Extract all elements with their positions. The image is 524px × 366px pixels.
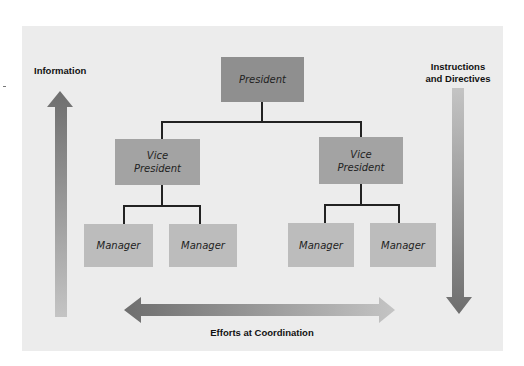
manager-box-1: Manager <box>84 224 153 267</box>
vice-president-left-box: Vice President <box>115 139 200 185</box>
president-box: President <box>221 57 304 102</box>
instructions-label-line1: Instructions <box>418 61 498 73</box>
vp-left-label-line2: President <box>134 162 181 175</box>
manager-3-label: Manager <box>299 239 343 252</box>
connector-vp-left-down <box>161 185 163 206</box>
connector-left-managers-horizontal <box>123 205 200 207</box>
president-label: President <box>239 73 286 86</box>
flow-arrows <box>0 0 524 366</box>
vp-right-label-line1: Vice <box>337 148 384 161</box>
instructions-directives-label: Instructions and Directives <box>418 61 498 85</box>
connector-to-vp-right <box>360 121 362 137</box>
vp-left-label-line1: Vice <box>134 149 181 162</box>
information-up-arrow-icon <box>47 91 73 317</box>
coordination-double-arrow-icon <box>124 297 395 323</box>
instructions-down-arrow-icon <box>446 88 472 314</box>
manager-box-4: Manager <box>370 223 436 267</box>
manager-box-3: Manager <box>288 223 354 267</box>
vp-right-label-line2: President <box>337 161 384 174</box>
manager-box-2: Manager <box>169 224 237 267</box>
connector-vp-right-down <box>360 184 362 205</box>
connector-to-vp-left <box>161 121 163 139</box>
connector-president-down <box>261 102 263 122</box>
connector-vp-horizontal <box>161 121 362 123</box>
manager-2-label: Manager <box>181 239 225 252</box>
vice-president-right-box: Vice President <box>319 137 403 184</box>
instructions-label-line2: and Directives <box>418 73 498 85</box>
information-label: Information <box>34 65 86 77</box>
coordination-label: Efforts at Coordination <box>200 327 324 339</box>
connector-right-managers-horizontal <box>324 204 400 206</box>
manager-1-label: Manager <box>97 239 141 252</box>
manager-4-label: Manager <box>381 239 425 252</box>
